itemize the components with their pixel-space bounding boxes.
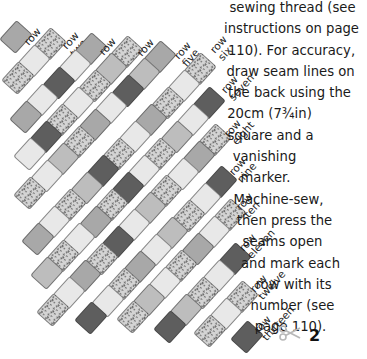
instruction-line: instructions on page — [209, 18, 367, 39]
instructions-text: sewing thread (seeinstructions on page11… — [206, 0, 367, 338]
scissors-icon — [279, 325, 301, 345]
instruction-line: square and a — [188, 125, 353, 146]
instruction-line: Machine-sew, — [196, 189, 361, 210]
instruction-line: marker. — [183, 167, 348, 188]
instruction-line: then press the — [202, 210, 367, 231]
instruction-line: 20cm (7¾in) — [187, 103, 352, 124]
instruction-line: seams open — [200, 231, 365, 252]
instruction-line: row with its — [211, 274, 367, 295]
instruction-line: sewing thread (see — [210, 0, 367, 18]
instruction-line: draw seam lines on — [208, 61, 367, 82]
instruction-line: vanishing — [182, 146, 347, 167]
instruction-line: number (see — [210, 295, 367, 316]
step-marker: 2 — [279, 325, 320, 345]
instruction-line: 110). For accuracy, — [209, 40, 367, 61]
step-number: 2 — [309, 326, 320, 345]
instruction-line: the back using the — [207, 82, 367, 103]
instruction-line: and mark each — [208, 253, 367, 274]
